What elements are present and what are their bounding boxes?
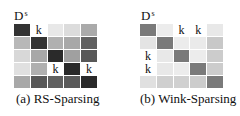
matrix-cell — [64, 50, 80, 62]
matrix-cell — [207, 63, 223, 75]
matrix-cell — [81, 24, 97, 36]
matrix-cell — [140, 24, 156, 36]
matrix-cell — [157, 37, 173, 49]
matrix-cell — [190, 76, 206, 88]
matrix-cell — [190, 63, 206, 75]
matrix-cell — [14, 24, 30, 36]
sparsity-matrix: kkkk — [140, 24, 223, 88]
matrix-cell: k — [140, 50, 156, 62]
matrix-cell — [174, 50, 190, 62]
matrix-cell: k — [190, 24, 206, 36]
matrix-cell — [14, 76, 30, 88]
matrix-cell — [48, 24, 64, 36]
caption: (a) RS-Sparsing — [16, 92, 99, 106]
matrix-cell — [157, 76, 173, 88]
matrix-cell — [190, 50, 206, 62]
matrix-cell — [48, 50, 64, 62]
matrix-cell — [140, 76, 156, 88]
caption: (b) Wink-Sparsing — [140, 92, 236, 106]
matrix-label: Ds — [14, 9, 28, 23]
matrix-cell — [174, 37, 190, 49]
matrix-cell — [64, 76, 80, 88]
matrix-cell: k — [140, 63, 156, 75]
matrix-cell — [157, 50, 173, 62]
matrix-label-base: D — [141, 8, 150, 23]
matrix-cell: k — [81, 63, 97, 75]
matrix-cell — [190, 37, 206, 49]
matrix-cell — [31, 50, 47, 62]
matrix-cell: k — [48, 63, 64, 75]
matrix-cell — [64, 24, 80, 36]
matrix-cell — [31, 76, 47, 88]
matrix-cell — [14, 37, 30, 49]
matrix-cell — [81, 76, 97, 88]
matrix-cell — [64, 63, 80, 75]
matrix-label-superscript: s — [24, 9, 27, 18]
matrix-cell: k — [31, 24, 47, 36]
matrix-cell — [48, 37, 64, 49]
matrix-cell — [157, 24, 173, 36]
matrix-cell — [48, 76, 64, 88]
matrix-label-superscript: s — [151, 9, 154, 18]
matrix-cell — [207, 24, 223, 36]
matrix-cell — [207, 76, 223, 88]
panel-wink-sparsing: Ds kkkk (b) Wink-Sparsing — [120, 0, 240, 116]
matrix-cell — [81, 37, 97, 49]
matrix-cell — [14, 50, 30, 62]
sparsity-matrix: kkk — [14, 24, 97, 88]
matrix-cell — [31, 37, 47, 49]
matrix-cell — [174, 76, 190, 88]
matrix-label: Ds — [141, 9, 155, 23]
matrix-label-base: D — [14, 8, 23, 23]
matrix-cell — [81, 50, 97, 62]
matrix-cell — [207, 37, 223, 49]
panel-rs-sparsing: Ds kkk (a) RS-Sparsing — [0, 0, 120, 116]
matrix-cell — [140, 37, 156, 49]
matrix-cell — [31, 63, 47, 75]
matrix-cell — [174, 63, 190, 75]
matrix-cell: k — [174, 24, 190, 36]
matrix-cell — [14, 63, 30, 75]
matrix-cell — [207, 50, 223, 62]
matrix-cell — [64, 37, 80, 49]
matrix-cell — [157, 63, 173, 75]
